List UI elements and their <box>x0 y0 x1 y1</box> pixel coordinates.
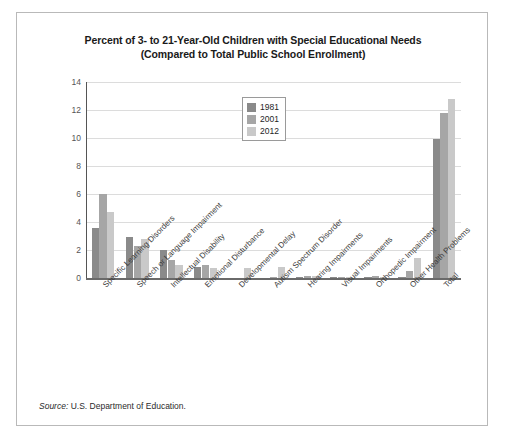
y-tick-label: 8 <box>51 161 81 171</box>
bar <box>330 277 337 278</box>
bar <box>107 212 114 278</box>
figure-panel: Percent of 3- to 21-Year-Old Children wi… <box>16 12 488 426</box>
source-value: U.S. Department of Education. <box>68 401 186 411</box>
y-tick-label: 2 <box>51 245 81 255</box>
legend-swatch-icon <box>247 115 256 124</box>
bar <box>364 277 371 278</box>
bar <box>99 194 106 278</box>
legend-item[interactable]: 2001 <box>247 113 279 125</box>
bar-group <box>92 82 115 278</box>
chart-title: Percent of 3- to 21-Year-Old Children wi… <box>17 33 489 61</box>
legend-item-label: 1981 <box>260 102 279 112</box>
legend-swatch-icon <box>247 127 256 136</box>
chart-title-line-2: (Compared to Total Public School Enrollm… <box>17 47 489 61</box>
y-tick-label: 0 <box>51 273 81 283</box>
y-tick-label: 12 <box>51 105 81 115</box>
legend-swatch-icon <box>247 103 256 112</box>
chart-title-line-1: Percent of 3- to 21-Year-Old Children wi… <box>17 33 489 47</box>
y-tick-label: 14 <box>51 77 81 87</box>
source-label: Source: <box>39 401 68 411</box>
bar <box>398 277 405 278</box>
y-tick-label: 6 <box>51 189 81 199</box>
legend-item-label: 2001 <box>260 114 279 124</box>
chart-legend: 198120012012 <box>242 97 286 141</box>
y-tick-label: 4 <box>51 217 81 227</box>
legend-item[interactable]: 1981 <box>247 101 279 113</box>
bar <box>92 228 99 278</box>
y-axis-line <box>86 82 87 278</box>
source-note: Source: U.S. Department of Education. <box>39 401 186 411</box>
legend-item-label: 2012 <box>260 126 279 136</box>
legend-item[interactable]: 2012 <box>247 125 279 137</box>
y-tick-label: 10 <box>51 133 81 143</box>
bar <box>168 260 175 278</box>
bar <box>202 265 209 278</box>
bar <box>296 277 303 278</box>
